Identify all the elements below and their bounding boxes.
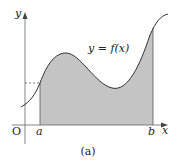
figure-caption: (a) (80, 145, 95, 158)
b-label: b (148, 125, 155, 138)
x-axis-label: x (162, 124, 169, 137)
y-axis-label: y (14, 7, 22, 20)
origin-label: O (12, 125, 21, 138)
y-axis-arrow-icon (23, 12, 28, 19)
curve-label: y = f(x) (87, 42, 129, 55)
area-under-curve-diagram: y x O a b y = f(x) (a) (0, 0, 182, 167)
shaded-area (21, 14, 168, 125)
a-label: a (36, 125, 43, 138)
